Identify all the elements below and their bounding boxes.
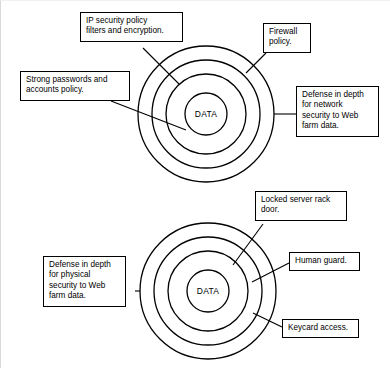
callout-strong-passwords[interactable]: Strong passwords and accounts policy. <box>20 71 130 101</box>
callout-ip-security-policy[interactable]: IP security policy filters and encryptio… <box>80 12 183 42</box>
callout-defense-in-depth-network[interactable]: Defense in depth for network security to… <box>296 86 379 137</box>
callout-defense-in-depth-physical[interactable]: Defense in depth for physical security t… <box>43 256 126 307</box>
diagram-vector-layer: DATA DATA <box>1 1 390 368</box>
network-core-label: DATA <box>195 109 218 119</box>
callout-human-guard[interactable]: Human guard. <box>289 252 360 271</box>
diagram-canvas: DATA DATA <box>0 0 390 368</box>
callout-locked-server-rack-door[interactable]: Locked server rack door. <box>255 191 347 221</box>
physical-core-label: DATA <box>197 286 220 296</box>
callout-firewall-policy[interactable]: Firewall policy. <box>263 23 311 53</box>
leader-strong-passwords <box>111 101 186 130</box>
network-security-rings: DATA <box>138 46 274 182</box>
physical-security-rings: DATA <box>140 223 276 359</box>
leader-firewall-policy <box>246 53 266 73</box>
callout-keycard-access[interactable]: Keycard access. <box>282 319 359 338</box>
